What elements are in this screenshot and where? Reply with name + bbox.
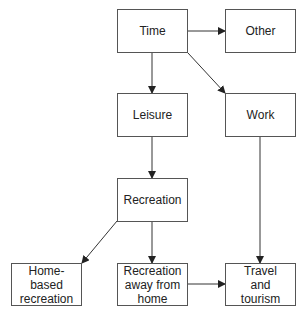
node-time: Time xyxy=(117,9,188,53)
node-leisure: Leisure xyxy=(117,93,188,137)
node-label: Time xyxy=(139,24,165,38)
node-recreation: Recreation xyxy=(117,178,188,222)
node-work: Work xyxy=(225,93,296,137)
node-other: Other xyxy=(225,9,296,53)
node-recreation-away-from-home: Recreation away from home xyxy=(117,263,188,306)
node-label: Home-based recreation xyxy=(20,264,73,306)
node-label: Work xyxy=(247,108,275,122)
node-label: Recreation xyxy=(123,193,181,207)
node-label: Travel and tourism xyxy=(234,264,287,306)
node-label: Other xyxy=(245,24,275,38)
node-home-based-recreation: Home-based recreation xyxy=(11,263,82,306)
node-travel-and-tourism: Travel and tourism xyxy=(225,263,296,306)
edge-time-work xyxy=(188,53,225,93)
node-label: Recreation away from home xyxy=(118,264,187,306)
edge-recreation-homebased xyxy=(82,221,117,263)
node-label: Leisure xyxy=(133,108,172,122)
